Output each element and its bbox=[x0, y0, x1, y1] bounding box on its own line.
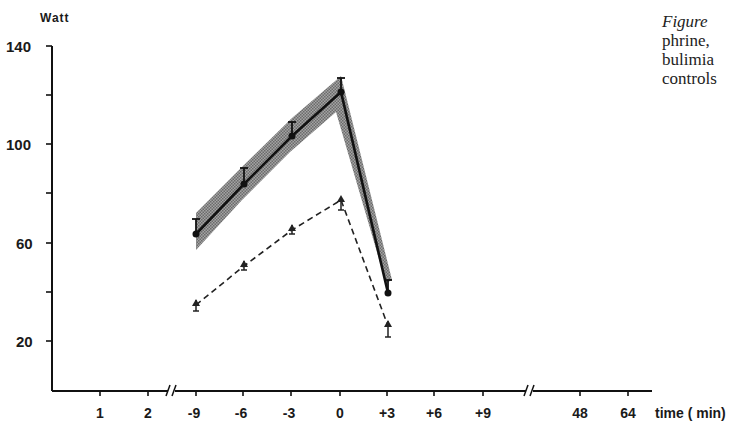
y-tick-label: 140 bbox=[6, 38, 31, 55]
x-tick-label: 0 bbox=[336, 405, 344, 421]
x-tick-label: +6 bbox=[426, 405, 442, 421]
caption-line: Figure bbox=[662, 12, 717, 31]
y-axis-title: Watt bbox=[40, 11, 70, 25]
chart: Watt 140 100 60 20 1 2 -9 -6 -3 0 +3 +6 … bbox=[0, 0, 740, 432]
y-tick-label: 100 bbox=[6, 136, 31, 153]
x-axis-title: time ( min) bbox=[655, 405, 726, 421]
x-tick-label: -3 bbox=[283, 405, 296, 421]
x-tick-label: +3 bbox=[379, 405, 395, 421]
caption-line: bulimia bbox=[662, 50, 717, 69]
y-tick-label: 60 bbox=[16, 235, 33, 252]
x-tick-label: -6 bbox=[235, 405, 248, 421]
x-tick-label: 64 bbox=[620, 405, 636, 421]
figure-caption: Figure phrine, bulimia controls bbox=[662, 12, 717, 88]
x-axis bbox=[52, 385, 652, 396]
y-tick-label: 20 bbox=[16, 333, 33, 350]
x-tick-label: -9 bbox=[188, 405, 201, 421]
series-controls-line bbox=[196, 200, 388, 326]
x-tick-label: +9 bbox=[475, 405, 491, 421]
x-tick-label: 2 bbox=[144, 405, 152, 421]
caption-line: phrine, bbox=[662, 31, 717, 50]
x-tick-label: 48 bbox=[572, 405, 588, 421]
x-tick-label: 1 bbox=[96, 405, 104, 421]
caption-line: controls bbox=[662, 69, 717, 88]
